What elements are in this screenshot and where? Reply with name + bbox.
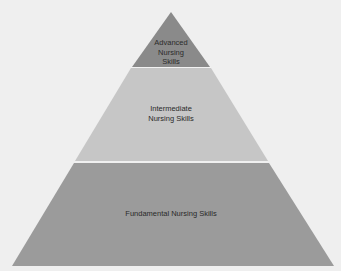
tier-label-line: Skills (141, 57, 201, 67)
tier-label-line: Fundamental Nursing Skills (101, 209, 241, 219)
tier-label-line: Nursing (141, 48, 201, 58)
tier-label-line: Nursing Skills (126, 114, 216, 124)
tier-label-fundamental: Fundamental Nursing Skills (101, 209, 241, 219)
tier-label-line: Advanced (141, 38, 201, 48)
tier-label-advanced: Advanced Nursing Skills (141, 38, 201, 67)
tier-label-intermediate: Intermediate Nursing Skills (126, 104, 216, 123)
tier-label-line: Intermediate (126, 104, 216, 114)
